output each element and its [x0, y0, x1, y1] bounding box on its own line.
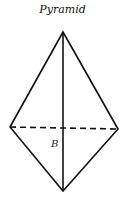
base-label: B [51, 138, 58, 149]
hidden-base-edge [10, 127, 118, 129]
pyramid-figure [0, 0, 125, 200]
pyramid-outline [10, 32, 118, 191]
